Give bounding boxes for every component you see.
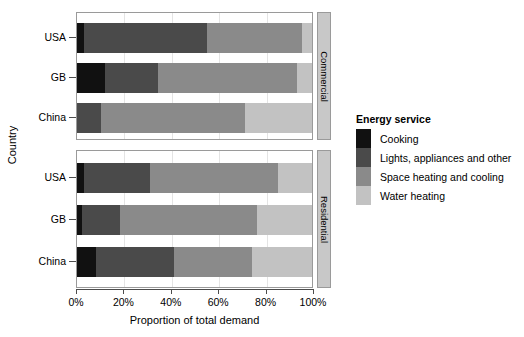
legend-item: Space heating and cooling <box>356 167 522 186</box>
strip-label-commercial-text: Commercial <box>319 51 330 102</box>
x-tick-label: 40% <box>160 296 181 308</box>
x-tick-label: 0% <box>68 296 83 308</box>
bar-segment-cooking <box>77 163 84 193</box>
x-tick-mark <box>123 289 124 294</box>
legend-label: Lights, appliances and other <box>380 152 511 164</box>
legend-item: Lights, appliances and other <box>356 148 522 167</box>
legend-swatch <box>356 129 371 148</box>
y-tick-mark <box>69 219 76 220</box>
legend-title: Energy service <box>356 113 522 125</box>
y-tick-label-commercial-usa: USA <box>20 32 66 43</box>
x-tick-mark <box>76 289 77 294</box>
legend: Energy service CookingLights, appliances… <box>356 113 522 205</box>
x-tick-mark <box>171 289 172 294</box>
y-tick-label-residential-usa: USA <box>20 172 66 183</box>
panel-commercial <box>76 12 313 140</box>
legend-label: Space heating and cooling <box>380 171 504 183</box>
bar-segment-lights-appliances-and-other <box>105 63 157 93</box>
y-tick-mark <box>69 177 76 178</box>
legend-swatch <box>356 186 371 205</box>
bar-segment-lights-appliances-and-other <box>96 247 174 277</box>
strip-label-residential: Residential <box>317 150 331 288</box>
bar-segment-cooking <box>77 247 96 277</box>
y-axis-title: Country <box>2 0 22 290</box>
bar-segment-lights-appliances-and-other <box>84 163 150 193</box>
bar-segment-space-heating-and-cooling <box>207 23 302 53</box>
legend-swatch <box>356 148 371 167</box>
y-tick-label-residential-gb: GB <box>20 214 66 225</box>
x-tick-label: 60% <box>208 296 229 308</box>
y-tick-mark <box>69 261 76 262</box>
y-tick-mark <box>69 37 76 38</box>
y-tick-label-residential-china: China <box>20 256 66 267</box>
x-tick-label: 80% <box>255 296 276 308</box>
bar-segment-space-heating-and-cooling <box>158 63 298 93</box>
legend-swatch <box>356 167 371 186</box>
bar-segment-water-heating <box>245 103 313 133</box>
strip-label-commercial: Commercial <box>317 12 331 140</box>
x-tick-mark <box>266 289 267 294</box>
bar-segment-water-heating <box>297 63 313 93</box>
y-tick-label-commercial-china: China <box>20 112 66 123</box>
bar-segment-cooking <box>77 23 84 53</box>
bar-segment-water-heating <box>278 163 313 193</box>
y-tick-mark <box>69 77 76 78</box>
bar-segment-lights-appliances-and-other <box>82 205 120 235</box>
bar-segment-space-heating-and-cooling <box>101 103 246 133</box>
bar-segment-space-heating-and-cooling <box>150 163 278 193</box>
x-axis-line <box>76 289 313 290</box>
bar-segment-water-heating <box>257 205 313 235</box>
bar-segment-cooking <box>77 63 105 93</box>
bar-segment-lights-appliances-and-other <box>77 103 101 133</box>
legend-label: Water heating <box>380 190 445 202</box>
bar-segment-water-heating <box>302 23 313 53</box>
x-tick-mark <box>313 289 314 294</box>
bar-segment-water-heating <box>252 247 313 277</box>
y-tick-mark <box>69 117 76 118</box>
y-axis-title-text: Country <box>6 126 18 165</box>
bar-commercial-gb <box>77 63 313 93</box>
x-tick-mark <box>218 289 219 294</box>
x-tick-label: 100% <box>300 296 327 308</box>
bar-commercial-usa <box>77 23 313 53</box>
strip-label-residential-text: Residential <box>319 196 330 243</box>
bar-segment-lights-appliances-and-other <box>84 23 207 53</box>
panel-residential <box>76 150 313 288</box>
bar-commercial-china <box>77 103 313 133</box>
legend-item: Water heating <box>356 186 522 205</box>
legend-label: Cooking <box>380 133 419 145</box>
bar-segment-space-heating-and-cooling <box>120 205 257 235</box>
legend-item: Cooking <box>356 129 522 148</box>
bar-segment-space-heating-and-cooling <box>174 247 252 277</box>
x-tick-label: 20% <box>113 296 134 308</box>
bar-residential-china <box>77 247 313 277</box>
y-tick-label-commercial-gb: GB <box>20 72 66 83</box>
x-axis-title: Proportion of total demand <box>76 314 313 326</box>
bar-residential-usa <box>77 163 313 193</box>
legend-items: CookingLights, appliances and otherSpace… <box>356 129 522 205</box>
bar-residential-gb <box>77 205 313 235</box>
